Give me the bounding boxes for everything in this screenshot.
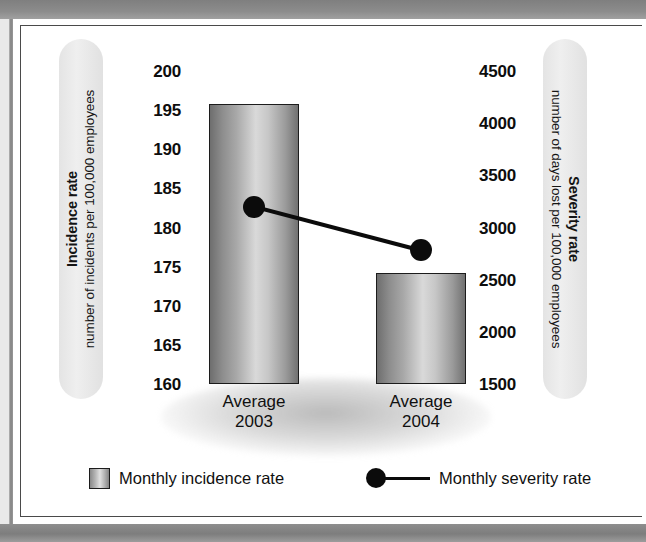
tick-label: 200 [125, 63, 181, 80]
tick-label: 4500 [479, 63, 535, 80]
right-axis-title-sub: number of days lost per 100,000 employee… [549, 90, 563, 349]
tick-label: 3000 [479, 220, 535, 237]
tick-label: 4000 [479, 115, 535, 132]
frame-bottom-band [0, 524, 646, 542]
series-marker [410, 239, 432, 261]
tick-label: 180 [125, 220, 181, 237]
frame-top-band [0, 0, 646, 19]
legend-label-severity: Monthly severity rate [439, 469, 591, 488]
tick-label: 175 [125, 259, 181, 276]
tick-label: 2500 [479, 272, 535, 289]
tick-label: 2000 [479, 324, 535, 341]
bar-swatch-icon [89, 468, 110, 489]
left-axis-title-main: Incidence rate [65, 171, 80, 267]
series-marker [243, 196, 265, 218]
tick-label: 195 [125, 102, 181, 119]
tick-label: 170 [125, 298, 181, 315]
category-label: Average2004 [346, 392, 496, 432]
legend-item-incidence: Monthly incidence rate [89, 468, 284, 489]
right-axis-title-main: Severity rate [566, 176, 581, 262]
tick-label: 185 [125, 180, 181, 197]
plot-area: Incidence rate number of incidents per 1… [21, 26, 643, 518]
legend-item-severity: Monthly severity rate [366, 468, 591, 488]
right-axis-tick-labels: 4500400035003000250020001500 [479, 26, 535, 518]
frame-left-padding [0, 19, 9, 524]
dot-line-icon [366, 468, 430, 488]
bar [209, 104, 299, 384]
chart-screenshot: Incidence rate number of incidents per 1… [0, 0, 646, 542]
tick-label: 3500 [479, 167, 535, 184]
left-axis-title-sub: number of incidents per 100,000 employee… [83, 90, 97, 349]
bar [376, 273, 466, 384]
left-axis-tick-labels: 200195190185180175170165160 [125, 26, 181, 518]
tick-label: 1500 [479, 376, 535, 393]
tick-label: 190 [125, 141, 181, 158]
chart-legend: Monthly incidence rate Monthly severity … [21, 462, 643, 512]
tick-label: 165 [125, 337, 181, 354]
category-label: Average2003 [179, 392, 329, 432]
chart-panel: Incidence rate number of incidents per 1… [20, 25, 642, 517]
left-axis-title: Incidence rate number of incidents per 1… [61, 39, 101, 399]
legend-label-incidence: Monthly incidence rate [119, 469, 284, 488]
frame-left-rule [9, 19, 13, 524]
tick-label: 160 [125, 376, 181, 393]
right-axis-title: Severity rate number of days lost per 10… [543, 39, 587, 399]
